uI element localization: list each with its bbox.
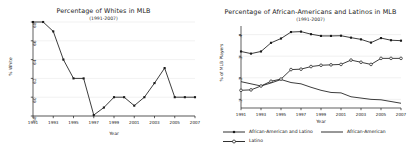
y-axis-label-left: % White — [8, 47, 13, 87]
chart-subtitle-left: (1991-2007) — [0, 16, 207, 21]
chart-title-right: Percentage of African-Americans and Lati… — [207, 8, 414, 16]
y-tick-label: 60 — [32, 97, 37, 102]
x-axis-label-right: Year — [241, 119, 401, 124]
legend-label-0[interactable]: African-American and Latino — [249, 129, 313, 134]
x-tick-label: 2001 — [333, 112, 349, 117]
y-tick-label: .2 — [238, 78, 243, 82]
x-tick-label: 1999 — [106, 120, 122, 125]
y-tick-label: 62 — [32, 79, 37, 84]
plot-area-right — [241, 26, 401, 108]
x-tick-label: 2005 — [373, 112, 389, 117]
x-tick-label: 2003 — [147, 120, 163, 125]
x-tick-label: 1997 — [86, 120, 102, 125]
x-axis-label-left: Year — [33, 131, 195, 136]
y-tick-label: 66 — [32, 41, 37, 46]
x-tick-label: 2007 — [187, 120, 203, 125]
x-tick-label: 1991 — [25, 120, 41, 125]
x-tick-label: 1999 — [313, 112, 329, 117]
figure-canvas: Percentage of Whites in MLB (1991-2007) … — [0, 0, 414, 150]
y-tick-label: .4 — [238, 35, 243, 39]
chart-panel-aa-latino: Percentage of African-Americans and Lati… — [207, 0, 414, 150]
x-tick-label: 1991 — [233, 112, 249, 117]
legend-label-2[interactable]: Latino — [249, 138, 263, 143]
x-tick-label: 2001 — [126, 120, 142, 125]
chart-panel-whites: Percentage of Whites in MLB (1991-2007) … — [0, 0, 207, 150]
x-tick-label: 2003 — [353, 112, 369, 117]
x-tick-label: 1993 — [45, 120, 61, 125]
x-tick-label: 2007 — [393, 112, 409, 117]
line-plot-left — [33, 22, 195, 116]
line-plot-right — [241, 26, 401, 108]
chart-subtitle-right: (1991-2007) — [207, 17, 414, 22]
x-tick-label: 1995 — [66, 120, 82, 125]
x-tick-label: 1997 — [293, 112, 309, 117]
y-tick-label: 68 — [32, 22, 37, 27]
legend-right: African-American and Latino African-Amer… — [221, 128, 414, 148]
y-tick-label: .3 — [238, 56, 243, 60]
plot-area-left — [33, 22, 195, 116]
x-tick-label: 1993 — [253, 112, 269, 117]
chart-title-left: Percentage of Whites in MLB — [0, 7, 207, 15]
x-tick-label: 1995 — [273, 112, 289, 117]
y-tick-label: 64 — [32, 60, 37, 65]
legend-label-1[interactable]: African-American — [347, 129, 386, 134]
x-tick-label: 2005 — [167, 120, 183, 125]
y-tick-label: .1 — [238, 99, 243, 103]
y-axis-label-right: % of MLB Players — [219, 37, 224, 89]
